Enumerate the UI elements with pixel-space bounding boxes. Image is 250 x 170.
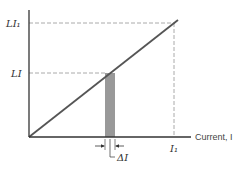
x-tick-i1: I₁: [169, 143, 178, 154]
flux-current-diagram: LI₁ LI I₁ Current, I ΔI: [0, 0, 250, 170]
delta-i-label: ΔI: [116, 152, 129, 163]
x-axis-label: Current, I: [195, 132, 233, 142]
arrowhead-left-icon: [115, 144, 119, 147]
arrowhead-right-icon: [101, 144, 105, 147]
delta-i-strip: [105, 73, 115, 137]
linear-relation-line: [29, 20, 178, 137]
delta-bracket: [110, 139, 115, 157]
y-tick-li1: LI₁: [5, 18, 21, 29]
y-tick-li: LI: [10, 68, 23, 79]
